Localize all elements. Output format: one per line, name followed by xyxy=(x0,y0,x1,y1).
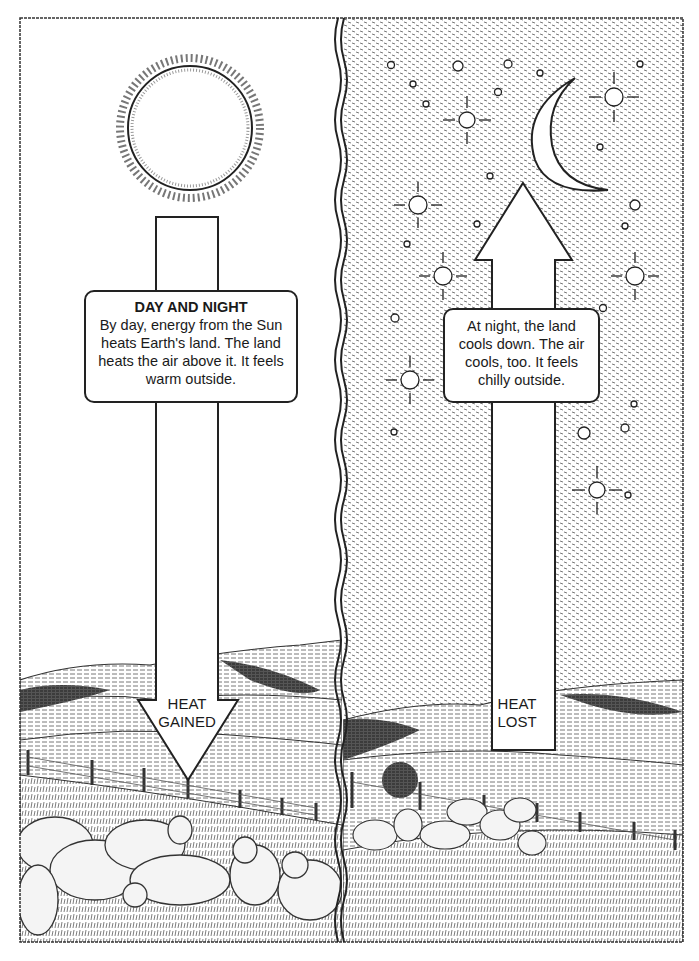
arrow-label-line2: GAINED xyxy=(147,713,227,731)
day-caption-box: DAY AND NIGHT By day, energy from the Su… xyxy=(84,290,298,403)
day-panel xyxy=(17,18,342,960)
night-caption-text: At night, the land cools down. The air c… xyxy=(459,318,584,388)
night-panel xyxy=(343,18,683,960)
heat-gained-label: HEAT GAINED xyxy=(147,695,227,731)
day-caption-text: By day, energy from the Sun heats Earth'… xyxy=(98,317,283,387)
night-caption-box: At night, the land cools down. The air c… xyxy=(443,308,600,403)
arrow-label-line1: HEAT xyxy=(477,695,557,713)
day-night-illustration xyxy=(0,0,699,961)
arrow-label-line1: HEAT xyxy=(147,695,227,713)
arrow-label-line2: LOST xyxy=(477,713,557,731)
diagram-title: DAY AND NIGHT xyxy=(94,298,288,316)
heat-lost-label: HEAT LOST xyxy=(477,695,557,731)
